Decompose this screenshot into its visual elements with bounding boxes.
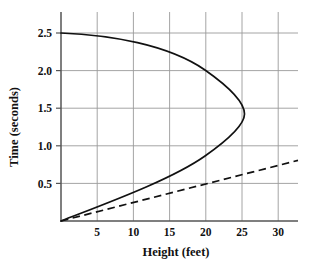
y-tick-label-1-5: 1.5 xyxy=(38,102,53,114)
chart-background xyxy=(0,0,314,265)
height-vs-time-chart: 2.5 2.0 1.5 1.0 0.5 5 10 15 20 25 30 Hei… xyxy=(0,0,314,265)
chart-container: 2.5 2.0 1.5 1.0 0.5 5 10 15 20 25 30 Hei… xyxy=(0,0,314,265)
y-tick-label-1-0: 1.0 xyxy=(38,140,53,152)
x-tick-label-5: 5 xyxy=(94,226,100,238)
x-tick-label-15: 15 xyxy=(164,226,176,238)
y-tick-label-0-5: 0.5 xyxy=(38,178,53,190)
x-tick-label-25: 25 xyxy=(236,226,248,238)
y-axis-title: Time (seconds) xyxy=(7,87,21,167)
y-tick-label-2-0: 2.0 xyxy=(38,65,53,77)
x-tick-label-20: 20 xyxy=(200,226,212,238)
y-tick-label-2-5: 2.5 xyxy=(38,27,53,39)
x-tick-label-10: 10 xyxy=(128,226,140,238)
x-tick-label-30: 30 xyxy=(272,226,284,238)
x-axis-title: Height (feet) xyxy=(143,245,210,259)
